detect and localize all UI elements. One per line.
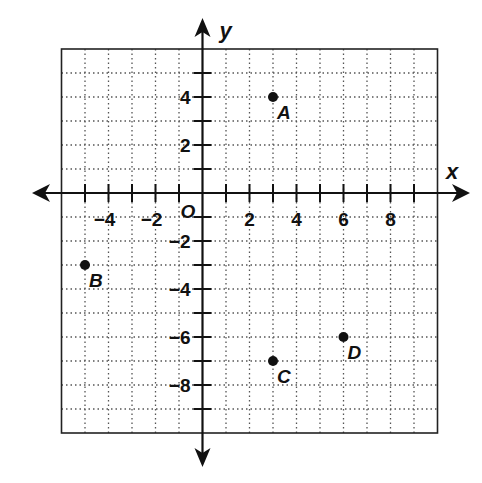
x-tick-label: 6 bbox=[338, 209, 349, 230]
y-tick-label: 2 bbox=[180, 135, 191, 156]
point-marker bbox=[268, 92, 278, 102]
point-label: C bbox=[277, 366, 291, 387]
y-axis-label: y bbox=[219, 18, 234, 43]
y-tick-label: −6 bbox=[169, 327, 191, 348]
x-tick-label: 4 bbox=[291, 209, 302, 230]
x-tick-label: 8 bbox=[385, 209, 396, 230]
point-b: B bbox=[80, 260, 103, 291]
point-label: D bbox=[348, 342, 362, 363]
point-marker bbox=[80, 260, 90, 270]
x-tick-label: 2 bbox=[244, 209, 255, 230]
y-tick-label: −4 bbox=[169, 279, 191, 300]
point-label: A bbox=[276, 102, 291, 123]
point-label: B bbox=[89, 270, 103, 291]
y-tick-label: −2 bbox=[169, 231, 191, 252]
y-tick-label: −8 bbox=[169, 375, 191, 396]
point-marker bbox=[268, 356, 278, 366]
axes bbox=[32, 18, 470, 467]
coordinate-plane: −4−2246842−2−4−6−8 ABCD x y O bbox=[0, 0, 482, 483]
x-tick-label: −2 bbox=[141, 209, 163, 230]
points: ABCD bbox=[80, 92, 362, 387]
origin-label: O bbox=[181, 201, 196, 222]
x-axis-label: x bbox=[445, 159, 459, 184]
y-tick-label: 4 bbox=[180, 87, 191, 108]
grid bbox=[62, 49, 438, 433]
x-tick-label: −4 bbox=[94, 209, 116, 230]
point-marker bbox=[339, 332, 349, 342]
